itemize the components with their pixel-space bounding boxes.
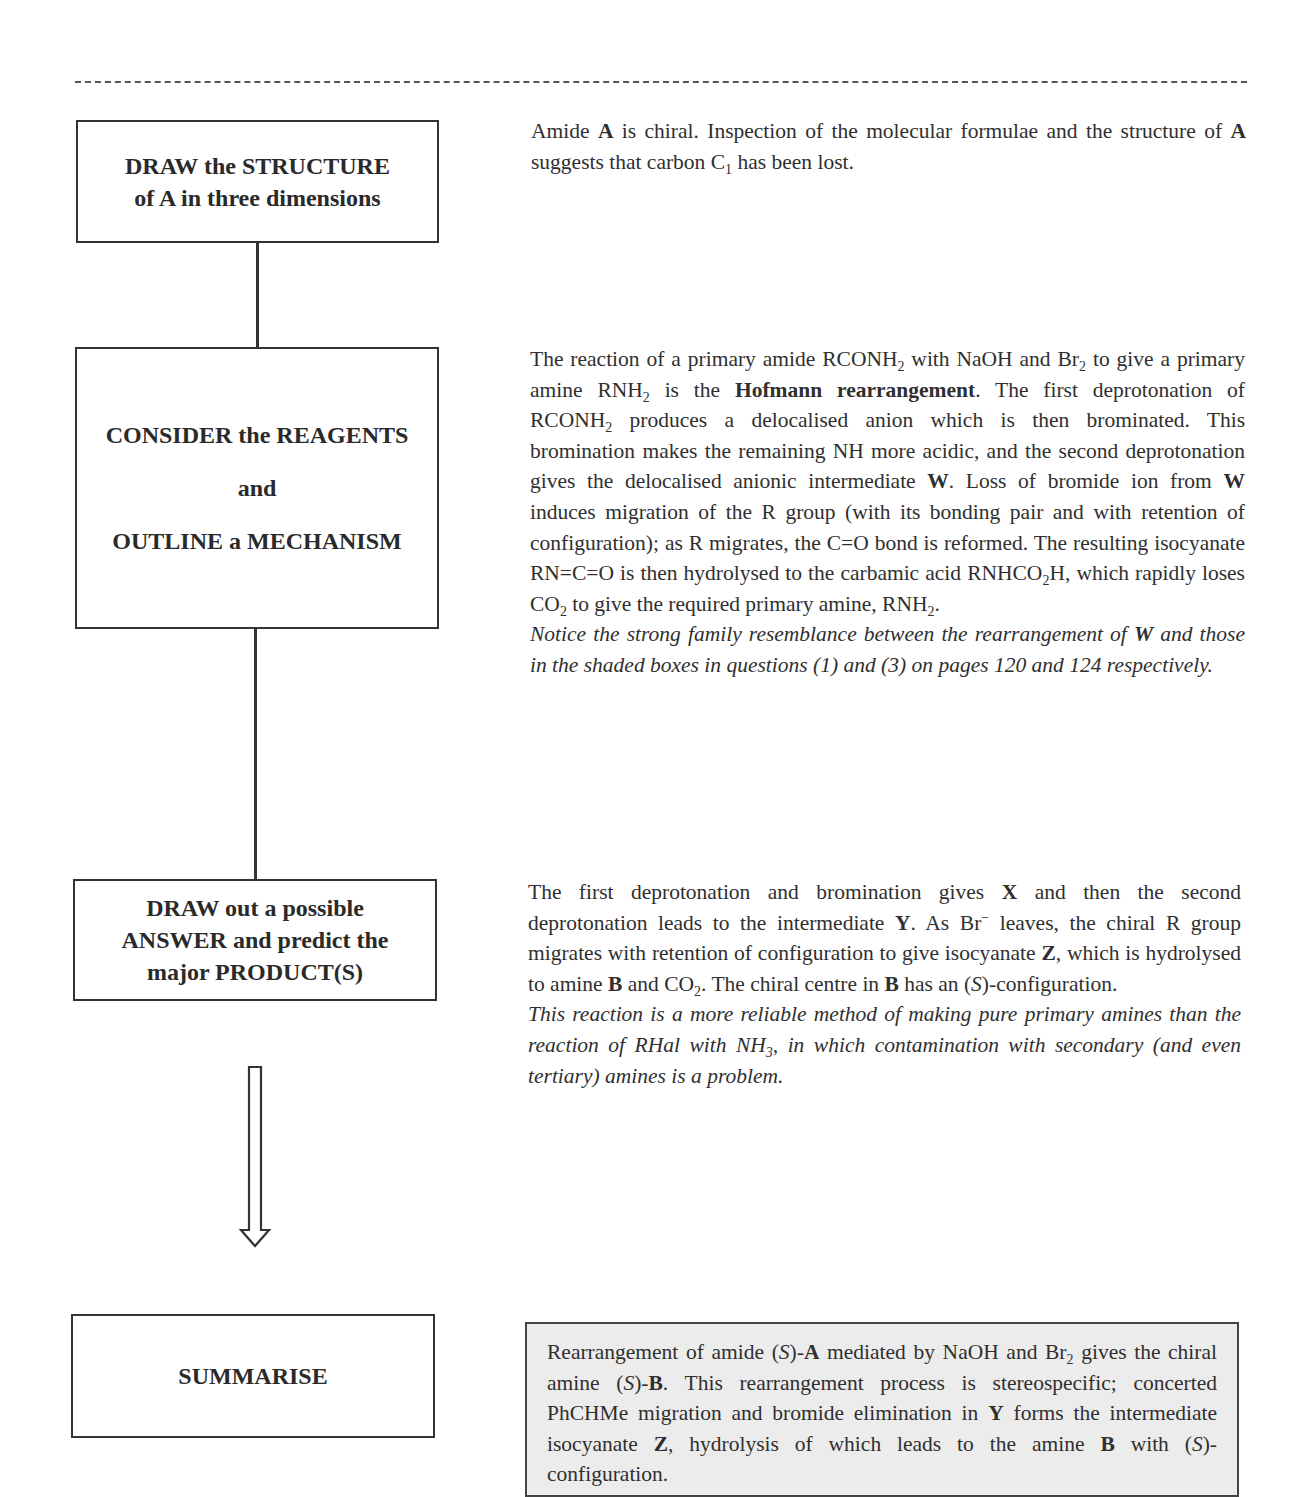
step-label-line: ANSWER and predict the	[122, 924, 389, 956]
step-box-draw-answer: DRAW out a possible ANSWER and predict t…	[73, 879, 437, 1001]
step-box-summarise: SUMMARISE	[71, 1314, 435, 1438]
connector-line	[254, 629, 257, 881]
step-label-line: major PRODUCT(S)	[147, 956, 363, 988]
step-label-line: OUTLINE a MECHANISM	[112, 515, 401, 568]
step-label-line: DRAW the STRUCTURE	[125, 150, 390, 182]
mechanism-paragraph: The reaction of a primary amide RCONH2 w…	[530, 344, 1245, 681]
down-arrow-icon	[238, 1066, 272, 1250]
answer-paragraph: The first deprotonation and bromination …	[528, 877, 1241, 1091]
step-box-draw-structure: DRAW the STRUCTURE of A in three dimensi…	[76, 120, 439, 243]
mechanism-note: Notice the strong family resemblance bet…	[530, 619, 1245, 680]
step-label-line: DRAW out a possible	[146, 892, 364, 924]
step-label-line: and	[238, 462, 277, 515]
structure-paragraph: Amide A is chiral. Inspection of the mol…	[531, 116, 1246, 177]
summary-shaded-box: Rearrangement of amide (S)-A mediated by…	[525, 1322, 1239, 1497]
dashed-separator	[75, 81, 1247, 83]
step-label-line: CONSIDER the REAGENTS	[106, 409, 409, 462]
step-label-line: of A in three dimensions	[134, 182, 380, 214]
connector-line	[256, 243, 259, 349]
answer-note: This reaction is a more reliable method …	[528, 999, 1241, 1091]
step-label-line: SUMMARISE	[178, 1360, 327, 1392]
step-box-consider-reagents: CONSIDER the REAGENTS and OUTLINE a MECH…	[75, 347, 439, 629]
